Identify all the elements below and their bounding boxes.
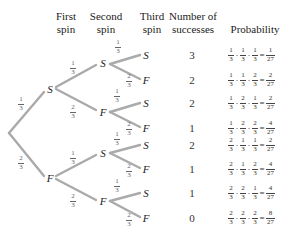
probability-expression: 13·13·13=127	[228, 47, 275, 63]
multiply-dot: ·	[236, 98, 239, 108]
factor-fraction: 23	[228, 185, 234, 201]
factor-fraction: 13	[252, 47, 258, 63]
factor-fraction: 13	[252, 95, 258, 111]
factor-fraction: 23	[252, 210, 258, 226]
branch-prob-l3-8: 23	[126, 212, 132, 228]
successes-value: 2	[189, 97, 195, 109]
multiply-dot: ·	[248, 75, 251, 85]
factor-fraction: 23	[252, 161, 258, 177]
factor-fraction: 23	[240, 120, 246, 136]
successes-value: 1	[189, 187, 195, 199]
node-l1-s: S	[47, 83, 53, 95]
node-l2-f2: F	[100, 195, 107, 207]
multiply-dot: ·	[248, 98, 251, 108]
factor-fraction: 13	[240, 137, 246, 153]
factor-fraction: 13	[252, 137, 258, 153]
node-l3-2: F	[143, 74, 150, 86]
probability-expression: 23·13·13=227	[228, 137, 275, 153]
factor-fraction: 13	[228, 95, 234, 111]
branch-prob-l3-5: 13	[114, 131, 120, 147]
multiply-dot: ·	[236, 50, 239, 60]
factor-fraction: 13	[228, 72, 234, 88]
result-fraction: 827	[266, 210, 275, 226]
multiply-dot: ·	[248, 123, 251, 133]
branch-prob-l3-6: 23	[126, 163, 132, 179]
factor-fraction: 23	[240, 95, 246, 111]
node-l3-4: F	[143, 122, 150, 134]
node-l2-f1: F	[100, 106, 107, 118]
equals-sign: =	[260, 164, 265, 174]
result-fraction: 127	[266, 47, 275, 63]
node-l2-s1: S	[100, 57, 106, 69]
branch-prob-l2-1: 13	[70, 60, 76, 76]
result-fraction: 427	[266, 120, 275, 136]
successes-value: 0	[189, 212, 195, 224]
factor-fraction: 13	[228, 47, 234, 63]
probability-expression: 13·23·13=227	[228, 95, 275, 111]
probability-expression: 23·23·13=427	[228, 185, 275, 201]
factor-fraction: 23	[240, 210, 246, 226]
multiply-dot: ·	[236, 140, 239, 150]
factor-fraction: 23	[228, 210, 234, 226]
probability-expression: 13·13·23=227	[228, 72, 275, 88]
multiply-dot: ·	[236, 75, 239, 85]
branch-prob-l1-s: 13	[18, 96, 24, 112]
node-l3-5: S	[143, 139, 149, 151]
branch-prob-l3-4: 23	[126, 121, 132, 137]
multiply-dot: ·	[248, 188, 251, 198]
probability-expression: 23·13·23=427	[228, 161, 275, 177]
multiply-dot: ·	[236, 164, 239, 174]
equals-sign: =	[260, 123, 265, 133]
factor-fraction: 13	[252, 185, 258, 201]
probability-expression: 23·23·23=827	[228, 210, 275, 226]
successes-value: 3	[189, 49, 195, 61]
equals-sign: =	[260, 75, 265, 85]
node-l3-3: S	[143, 97, 149, 109]
successes-value: 1	[189, 122, 195, 134]
result-fraction: 227	[266, 95, 275, 111]
tree-branches	[0, 0, 294, 238]
multiply-dot: ·	[248, 50, 251, 60]
multiply-dot: ·	[248, 140, 251, 150]
node-l2-s2: S	[100, 147, 106, 159]
node-l3-7: S	[143, 187, 149, 199]
branch-prob-l2-3: 13	[70, 150, 76, 166]
equals-sign: =	[260, 50, 265, 60]
branch-prob-l3-7: 13	[114, 178, 120, 194]
factor-fraction: 23	[228, 161, 234, 177]
branch-prob-l2-4: 23	[70, 193, 76, 209]
factor-fraction: 13	[240, 72, 246, 88]
multiply-dot: ·	[248, 213, 251, 223]
factor-fraction: 13	[240, 161, 246, 177]
equals-sign: =	[260, 213, 265, 223]
result-fraction: 227	[266, 72, 275, 88]
result-fraction: 427	[266, 161, 275, 177]
successes-value: 2	[189, 139, 195, 151]
branch-prob-l3-1: 13	[115, 39, 121, 55]
factor-fraction: 23	[252, 120, 258, 136]
node-l3-1: S	[143, 49, 149, 61]
equals-sign: =	[260, 188, 265, 198]
factor-fraction: 23	[240, 185, 246, 201]
equals-sign: =	[260, 98, 265, 108]
factor-fraction: 23	[228, 137, 234, 153]
successes-value: 2	[189, 74, 195, 86]
factor-fraction: 13	[240, 47, 246, 63]
node-l3-8: F	[143, 212, 150, 224]
branch-prob-l3-2: 23	[126, 73, 132, 89]
multiply-dot: ·	[236, 188, 239, 198]
node-l1-f: F	[47, 172, 54, 184]
node-l3-6: F	[143, 163, 150, 175]
factor-fraction: 23	[252, 72, 258, 88]
factor-fraction: 13	[228, 120, 234, 136]
branch-prob-l2-2: 23	[70, 104, 76, 120]
result-fraction: 427	[266, 185, 275, 201]
multiply-dot: ·	[248, 164, 251, 174]
multiply-dot: ·	[236, 123, 239, 133]
branch-prob-l3-3: 13	[114, 88, 120, 104]
branch-prob-l1-f: 23	[18, 155, 24, 171]
result-fraction: 227	[266, 137, 275, 153]
equals-sign: =	[260, 140, 265, 150]
successes-value: 1	[189, 163, 195, 175]
probability-expression: 13·23·23=427	[228, 120, 275, 136]
